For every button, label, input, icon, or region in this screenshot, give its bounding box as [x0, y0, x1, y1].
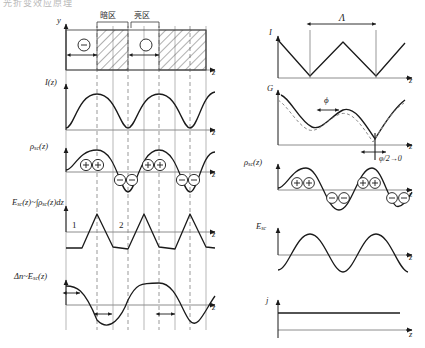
right-panel-current — [278, 300, 412, 338]
left-grating-z-label: z — [212, 68, 215, 77]
left-panel-intensity — [66, 84, 215, 130]
right-current-z-label: z — [409, 330, 412, 339]
phase-note-label: φ/2→0 — [379, 155, 402, 163]
right-esc-y-label: Esc — [256, 222, 266, 231]
left-esc-z-label: z — [212, 230, 215, 239]
right-panel-gain — [278, 90, 412, 160]
left-panel-rho — [66, 148, 215, 192]
phase-phi-label: ϕ — [324, 96, 329, 105]
right-intensity-z-label: z — [409, 76, 412, 85]
right-intensity-y-label: I — [269, 28, 272, 37]
right-panel-intensity — [278, 24, 412, 78]
left-intensity-y-label: I(z) — [45, 78, 57, 87]
right-rho-y-label: ρsc(z) — [244, 158, 262, 167]
left-y-axis-label: y — [57, 16, 61, 25]
right-panel-esc — [278, 228, 412, 272]
right-gain-y-label: G — [267, 84, 273, 93]
left-rho-y-label: ρsc(z) — [30, 142, 48, 151]
left-panel-dn — [66, 280, 215, 325]
right-panel-rho — [278, 164, 412, 210]
left-esc-y-label: Esc(z)~∫ρsc(z)dz — [12, 198, 64, 207]
left-rho-z-label: z — [212, 170, 215, 179]
period-lambda-label: Λ — [339, 13, 345, 23]
left-rho-y-label-sub: sc — [34, 145, 39, 151]
left-dn-y-label: Δn~Esc(z) — [14, 272, 47, 281]
left-intensity-z-label: z — [212, 128, 215, 137]
right-esc-z-label: z — [409, 253, 412, 262]
right-gain-z-label: z — [409, 142, 412, 151]
right-rho-z-label: z — [409, 190, 412, 199]
esc-marker-2: 2 — [119, 221, 124, 230]
left-dn-z-label: z — [212, 303, 215, 312]
carrier-right — [132, 39, 159, 55]
carrier-left — [70, 39, 97, 55]
region-bright-label: 亮区 — [134, 9, 150, 20]
esc-marker-1: 1 — [72, 221, 77, 230]
left-panel-esc — [66, 206, 215, 249]
region-dark-label: 暗区 — [100, 9, 116, 20]
left-panel-grating — [66, 22, 215, 70]
right-current-y-label: j — [266, 296, 268, 305]
